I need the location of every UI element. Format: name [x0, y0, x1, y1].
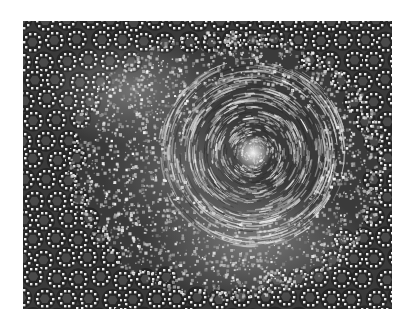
- artwork-canvas: [23, 21, 392, 309]
- abstract-spiral-artwork: [23, 21, 392, 309]
